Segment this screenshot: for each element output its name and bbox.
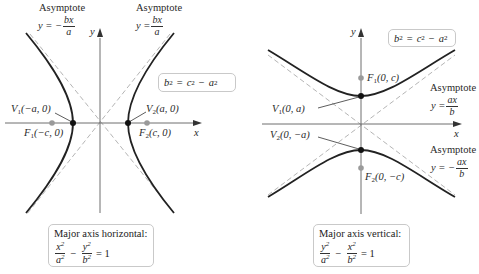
right-vertex-v1 (358, 93, 364, 99)
right-focus-f1 (358, 75, 364, 81)
right-caption-box: Major axis vertical: y2a2 − x2b2 = 1 (313, 224, 410, 267)
equals-one: = 1 (361, 248, 375, 259)
point-coord: (−a, 0) (21, 103, 51, 114)
right-asymptote-negative-label: Asymptote (430, 145, 476, 156)
fraction: axb (446, 95, 457, 117)
eq-prefix: y = (431, 101, 445, 112)
caption-equation: y2a2 − x2b2 = 1 (319, 241, 404, 265)
left-vertex-v2 (125, 120, 131, 126)
right-v2-label: V2(0, −a) (270, 130, 310, 142)
caption-equation: x2a2 − y2b2 = 1 (54, 241, 148, 265)
left-x-axis-arrow-icon (193, 120, 202, 126)
fraction: bxa (63, 15, 74, 37)
caption-title: Major axis vertical: (319, 228, 404, 239)
right-asymptote-positive-label: Asymptote (430, 83, 476, 94)
left-asymptote-negative-label: Asymptote (39, 3, 85, 14)
denominator: b (458, 169, 465, 180)
numerator: bx (63, 15, 74, 27)
right-v1-leader (318, 97, 359, 108)
left-asymptote-positive-equation: y = bxa (136, 15, 164, 37)
right-y-axis-label: y (351, 27, 356, 38)
left-y-axis-arrow-icon (97, 28, 103, 37)
point-coord: (−c, 0) (34, 127, 63, 138)
point-coord: (0, −c) (375, 171, 404, 182)
left-x-axis-label: x (194, 128, 199, 139)
left-v1-leader (55, 113, 72, 122)
left-f2-label: F2(c, 0) (139, 128, 171, 140)
right-v1-label: V1(0, a) (272, 104, 305, 116)
right-graph (262, 28, 462, 214)
numerator: ax (446, 95, 457, 107)
left-asymptote-negative-equation: y = − bxa (38, 15, 76, 37)
point-coord: (a, 0) (156, 103, 179, 114)
left-focus-f2 (144, 120, 150, 126)
left-relation-box: b2 = c2 − a2 (158, 73, 236, 92)
left-graph (5, 28, 202, 214)
left-vertex-v1 (70, 120, 76, 126)
left-focus-f1 (49, 120, 55, 126)
left-v1-label: V1(−a, 0) (11, 104, 51, 116)
denominator: a (65, 27, 72, 38)
point-coord: (0, −a) (280, 129, 310, 140)
right-relation-box: b2 = c2 − a2 (388, 29, 456, 47)
point-coord: (c, 0) (149, 127, 171, 138)
numerator: bx (151, 15, 162, 27)
right-focus-f2 (358, 165, 364, 171)
right-asymptote-positive-equation: y = axb (431, 95, 459, 117)
left-v2-label: V2(a, 0) (146, 104, 179, 116)
point-coord: (0, c) (377, 72, 399, 83)
point-coord: (0, a) (282, 103, 305, 114)
eq-prefix: y = − (38, 21, 62, 32)
fraction-term2: y2b2 (81, 241, 92, 265)
left-f1-label: F1(−c, 0) (24, 128, 63, 140)
equals-one: = 1 (96, 248, 110, 259)
caption-title: Major axis horizontal: (54, 228, 148, 239)
right-f2-label: F2(0, −c) (365, 172, 404, 184)
denominator: b (449, 107, 456, 118)
fraction-term2: x2b2 (346, 241, 357, 265)
denominator: a (154, 27, 161, 38)
fraction-term1: y2a2 (320, 241, 331, 265)
left-v2-leader (129, 112, 146, 122)
right-x-axis-label: x (454, 129, 459, 140)
numerator: ax (456, 157, 467, 169)
fraction-term1: x2a2 (55, 241, 66, 265)
fraction: axb (456, 157, 467, 179)
right-asymptote-negative-equation: y = − axb (431, 157, 469, 179)
right-x-axis-arrow-icon (453, 121, 462, 127)
right-y-axis-arrow-icon (358, 28, 364, 37)
left-y-axis-label: y (90, 27, 95, 38)
fraction: bxa (151, 15, 162, 37)
right-v2-leader (318, 137, 359, 149)
eq-prefix: y = − (431, 163, 455, 174)
left-caption-box: Major axis horizontal: x2a2 − y2b2 = 1 (48, 224, 154, 267)
right-vertex-v2 (358, 147, 364, 153)
right-f1-label: F1(0, c) (367, 73, 399, 85)
eq-prefix: y = (136, 21, 150, 32)
left-asymptote-positive-label: Asymptote (136, 3, 182, 14)
